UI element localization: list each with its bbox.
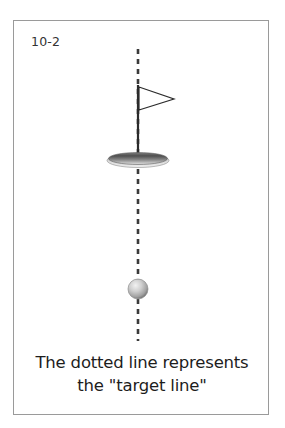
hole-cup xyxy=(109,153,168,165)
figure-caption: The dotted line represents the "target l… xyxy=(14,351,270,397)
golf-target-line-diagram xyxy=(14,21,270,351)
figure-page: 10-2 xyxy=(0,0,285,428)
golf-ball xyxy=(128,279,148,299)
hole xyxy=(107,153,169,168)
figure-card: 10-2 xyxy=(13,20,269,415)
caption-line-2: the "target line" xyxy=(14,374,270,397)
caption-line-1: The dotted line represents xyxy=(14,351,270,374)
flag-icon xyxy=(139,87,174,110)
